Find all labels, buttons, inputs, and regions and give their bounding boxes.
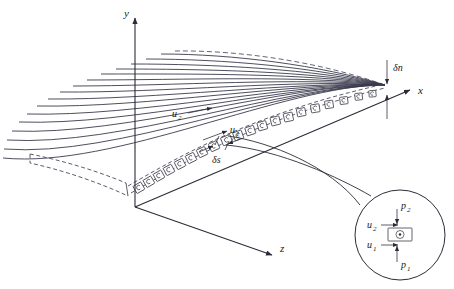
u2-arrow (188, 108, 212, 113)
surface-left-closure (126, 183, 128, 196)
detail-u1-label: u (367, 239, 372, 250)
vortex-cell (245, 125, 256, 136)
z-axis-line (135, 207, 272, 255)
p1-label-sub: 1 (407, 265, 411, 273)
z-axis-label: z (279, 242, 285, 254)
leader-line-upper (228, 136, 360, 205)
vortex-cell (257, 120, 268, 131)
vortex-cell (310, 104, 320, 113)
vortex-cell (283, 112, 294, 122)
p2-label-sub: 2 (407, 206, 411, 214)
vortex-cell (153, 170, 165, 182)
vortex-cell (340, 96, 349, 104)
delta-n-dimension: δn (387, 60, 403, 119)
surface-bottom-edge-dashed-2 (30, 154, 128, 196)
vortex-cell (369, 90, 377, 97)
vorticity-dot-icon (399, 233, 401, 235)
vortex-cell (296, 107, 306, 116)
vortex-cell (143, 176, 155, 188)
detail-u2-label-sub: 2 (373, 225, 377, 233)
detail-u2-label: u (367, 219, 372, 230)
u2-label: u (172, 108, 177, 119)
vortex-cell (324, 100, 333, 109)
y-axis-label: y (123, 7, 129, 19)
vortex-cell (185, 152, 197, 163)
detail-inset: p 2 p 1 u 2 u 1 (355, 190, 445, 280)
leader-line-lower (226, 145, 371, 196)
streamline-surface-diagram: y x z δn δs u 2 u 1 (0, 0, 454, 289)
streamline (7, 85, 385, 141)
delta-n-label: δn (393, 62, 403, 73)
streamline (4, 85, 385, 150)
p2-label: p (400, 200, 406, 211)
vortex-cell (163, 164, 175, 176)
vortex-cell (270, 116, 281, 126)
delta-s-label: δs (212, 154, 221, 165)
u2-label-sub: 2 (178, 114, 182, 122)
u1-label-sub: 1 (236, 130, 240, 138)
vortex-cell (355, 93, 363, 101)
u1-label: u (230, 124, 235, 135)
x-axis-label: x (417, 84, 423, 96)
detail-leader (226, 136, 371, 205)
vortex-cell (174, 158, 186, 170)
p1-label: p (400, 259, 406, 270)
coordinate-axes: y x z (123, 7, 423, 255)
detail-u1-label-sub: 1 (373, 245, 377, 253)
figure-root: y x z δn δs u 2 u 1 (0, 0, 454, 289)
